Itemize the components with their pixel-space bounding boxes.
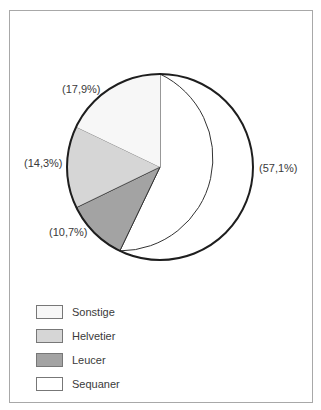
legend-swatch [36, 305, 63, 319]
legend-swatch [36, 353, 63, 367]
legend-item-helvetier: Helvetier [36, 324, 120, 348]
legend-item-sequaner: Sequaner [36, 372, 120, 396]
label-leucer: (10,7%) [49, 226, 88, 238]
label-sequaner: (57,1%) [259, 162, 298, 174]
legend-item-sonstige: Sonstige [36, 300, 120, 324]
legend-label: Helvetier [72, 330, 115, 342]
label-sonstige: (17,9%) [62, 83, 101, 95]
legend-label: Leucer [72, 354, 106, 366]
legend-label: Sonstige [72, 306, 115, 318]
legend: Sonstige Helvetier Leucer Sequaner [36, 300, 120, 396]
legend-swatch [36, 329, 63, 343]
legend-label: Sequaner [72, 378, 120, 390]
legend-item-leucer: Leucer [36, 348, 120, 372]
label-helvetier: (14,3%) [24, 157, 63, 169]
legend-swatch [36, 377, 63, 391]
